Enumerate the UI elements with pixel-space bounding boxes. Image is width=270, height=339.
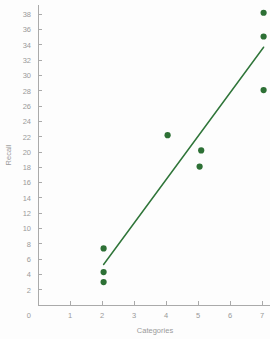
y-axis-title: Recall: [4, 144, 13, 165]
y-tick-label: 2: [27, 286, 31, 295]
x-axis-title: Categories: [137, 326, 174, 335]
y-tick-label: 38: [23, 10, 31, 19]
data-point: [261, 33, 267, 39]
y-tick-label: 8: [27, 240, 31, 249]
x-tick-label: 1: [68, 311, 72, 320]
y-tick-label: 6: [27, 255, 31, 264]
y-tick-label: 14: [23, 194, 31, 203]
y-tick-label: 10: [23, 224, 31, 233]
y-tick-label: 4: [27, 270, 31, 279]
x-tick-label: 2: [100, 311, 104, 320]
x-tick-label: 4: [164, 311, 168, 320]
y-tick-label: 12: [23, 209, 31, 218]
y-axis-ticks: 2468101214161820222426283032343638: [23, 10, 42, 294]
data-point: [165, 132, 171, 138]
x-axis-ticks: 1234567: [68, 301, 264, 320]
data-points: [101, 10, 267, 285]
y-tick-label: 22: [23, 133, 31, 142]
y-tick-label: 32: [23, 56, 31, 65]
data-point: [198, 147, 204, 153]
x-tick-label: 6: [228, 311, 232, 320]
y-tick-label: 28: [23, 87, 31, 96]
plot-area: 2468101214161820222426283032343638 12345…: [0, 0, 270, 339]
data-point: [101, 245, 107, 251]
x-tick-label: 3: [132, 311, 136, 320]
data-point: [197, 163, 203, 169]
x-tick-label: 5: [196, 311, 200, 320]
data-point: [261, 10, 267, 16]
y-tick-label: 26: [23, 102, 31, 111]
y-tick-label: 24: [23, 117, 31, 126]
y-tick-label: 16: [23, 178, 31, 187]
y-tick-label: 20: [23, 148, 31, 157]
data-point: [101, 269, 107, 275]
y-origin-tick-label: 0: [27, 311, 31, 320]
trend-line-segment: [104, 47, 264, 264]
y-tick-label: 36: [23, 25, 31, 34]
y-tick-label: 34: [23, 41, 31, 50]
data-point: [101, 279, 107, 285]
scatter-chart: 2468101214161820222426283032343638 12345…: [0, 0, 270, 339]
y-tick-label: 18: [23, 163, 31, 172]
y-tick-label: 30: [23, 71, 31, 80]
trend-line: [104, 47, 264, 264]
x-tick-label: 7: [260, 311, 264, 320]
data-point: [261, 87, 267, 93]
